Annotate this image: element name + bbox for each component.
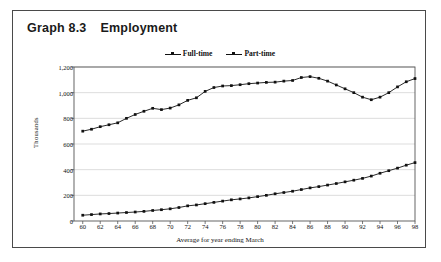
data-point-part-time: [352, 179, 355, 182]
data-point-part-time: [178, 206, 181, 209]
data-point-full-time: [204, 90, 207, 93]
data-point-part-time: [204, 202, 207, 205]
data-point-full-time: [344, 87, 347, 90]
x-axis-tick-label: 60: [79, 223, 86, 230]
data-point-part-time: [396, 167, 399, 170]
data-point-part-time: [344, 181, 347, 184]
x-axis-tick-label: 96: [394, 223, 401, 230]
data-point-part-time: [221, 200, 224, 203]
y-axis-tick-label: 1,200: [39, 64, 73, 71]
x-axis-tick-label: 64: [114, 223, 121, 230]
data-point-part-time: [230, 198, 233, 201]
x-axis-tick-label: 92: [359, 223, 366, 230]
y-axis-tick-label: 800: [39, 115, 73, 122]
x-axis-tick-label: 88: [324, 223, 331, 230]
data-point-full-time: [125, 117, 128, 120]
data-point-full-time: [405, 80, 408, 83]
y-axis-tick-label: 1,000: [39, 89, 73, 96]
data-point-full-time: [221, 85, 224, 88]
data-point-full-time: [116, 121, 119, 124]
data-point-part-time: [370, 175, 373, 178]
data-point-full-time: [151, 107, 154, 110]
data-point-full-time: [99, 125, 102, 128]
data-point-full-time: [396, 86, 399, 89]
data-point-part-time: [387, 169, 390, 172]
data-point-full-time: [178, 104, 181, 107]
x-axis-tick-label: 68: [149, 223, 156, 230]
data-point-full-time: [282, 80, 285, 83]
data-point-part-time: [160, 208, 163, 211]
data-point-part-time: [90, 213, 93, 216]
data-point-full-time: [134, 113, 137, 116]
data-point-full-time: [239, 83, 242, 86]
data-point-full-time: [335, 84, 338, 87]
x-axis-tick-label: 66: [132, 223, 139, 230]
x-axis-label: Average for year ending March: [13, 236, 427, 244]
data-point-full-time: [309, 75, 312, 78]
data-point-full-time: [379, 96, 382, 99]
data-point-part-time: [213, 201, 216, 204]
data-point-full-time: [195, 96, 198, 99]
x-axis-tick-label: 72: [184, 223, 191, 230]
data-point-part-time: [326, 184, 329, 187]
series-line-part-time: [83, 163, 415, 216]
data-point-full-time: [352, 91, 355, 94]
data-point-full-time: [317, 77, 320, 80]
x-axis-tick-label: 82: [272, 223, 279, 230]
data-point-part-time: [81, 214, 84, 217]
data-point-part-time: [291, 190, 294, 193]
data-point-full-time: [414, 77, 417, 80]
data-point-full-time: [361, 96, 364, 99]
data-point-part-time: [282, 191, 285, 194]
x-axis-tick-label: 74: [202, 223, 209, 230]
data-point-part-time: [414, 161, 417, 164]
data-point-full-time: [291, 79, 294, 82]
x-axis-tick-label: 76: [219, 223, 226, 230]
x-axis-tick-label: 98: [412, 223, 419, 230]
y-axis-tick-label: 400: [39, 166, 73, 173]
data-point-part-time: [335, 182, 338, 185]
data-point-full-time: [108, 123, 111, 126]
data-point-part-time: [379, 172, 382, 175]
data-point-part-time: [317, 185, 320, 188]
data-point-part-time: [239, 198, 242, 201]
data-point-part-time: [116, 212, 119, 215]
data-point-part-time: [195, 204, 198, 207]
x-axis-tick-label: 94: [377, 223, 384, 230]
figure-panel: Graph 8.3Employment Full-timePart-time T…: [12, 10, 426, 248]
data-point-part-time: [265, 194, 268, 197]
data-point-full-time: [300, 76, 303, 79]
data-point-full-time: [186, 99, 189, 102]
data-point-full-time: [387, 91, 390, 94]
y-axis-tick-label: 0: [39, 218, 73, 225]
data-point-part-time: [108, 212, 111, 215]
data-point-part-time: [125, 211, 128, 214]
data-point-part-time: [405, 164, 408, 167]
y-axis-tick-label: 600: [39, 141, 73, 148]
data-point-full-time: [169, 107, 172, 110]
data-point-part-time: [186, 205, 189, 208]
plot-svg: [13, 11, 427, 249]
chart-area: Thousands 02004006008001,0001,200 606264…: [13, 11, 427, 249]
data-point-part-time: [99, 213, 102, 216]
data-point-full-time: [213, 86, 216, 89]
data-point-part-time: [134, 211, 137, 214]
y-axis-tick-label: 200: [39, 192, 73, 199]
data-point-part-time: [256, 195, 259, 198]
data-point-full-time: [81, 130, 84, 133]
x-axis-tick-label: 80: [254, 223, 261, 230]
data-point-part-time: [143, 210, 146, 213]
data-point-part-time: [151, 209, 154, 212]
x-axis-tick-label: 86: [307, 223, 314, 230]
data-point-full-time: [326, 80, 329, 83]
data-point-full-time: [370, 98, 373, 101]
data-point-full-time: [90, 128, 93, 131]
data-point-part-time: [248, 197, 251, 200]
data-point-full-time: [256, 82, 259, 85]
data-point-full-time: [248, 82, 251, 85]
x-axis-tick-label: 62: [97, 223, 104, 230]
data-point-part-time: [274, 192, 277, 195]
data-point-full-time: [274, 81, 277, 84]
data-point-part-time: [300, 188, 303, 191]
data-point-full-time: [160, 108, 163, 111]
